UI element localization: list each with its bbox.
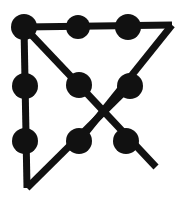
node-top-left [11, 14, 37, 40]
node-top-center [66, 15, 90, 39]
node-bottom-center [66, 128, 92, 154]
graph-diagram [0, 0, 186, 203]
figure-canvas [0, 0, 186, 203]
node-layer [11, 14, 143, 154]
node-bottom-right [113, 128, 139, 154]
edge-left-vertical [24, 27, 27, 188]
node-bottom-left [12, 128, 38, 154]
node-middle-center [66, 72, 92, 98]
edge-top-horizontal [24, 25, 172, 27]
node-middle-left [12, 73, 38, 99]
node-middle-right [117, 73, 143, 99]
node-top-right [115, 14, 141, 40]
